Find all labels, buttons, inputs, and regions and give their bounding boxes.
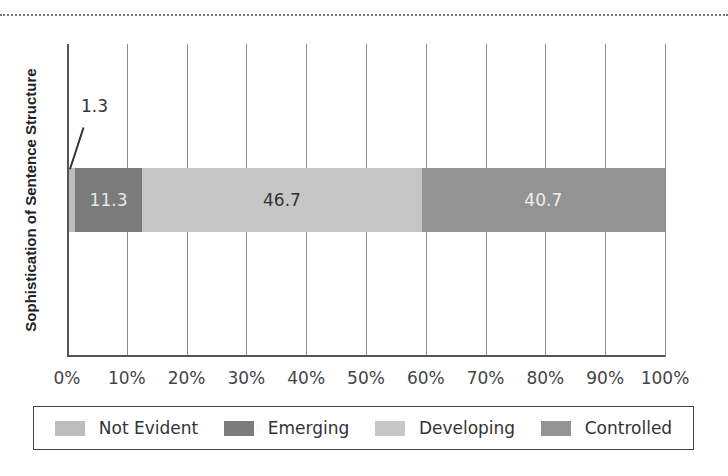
x-tick-label: 40%: [287, 368, 325, 388]
x-tick-label: 30%: [227, 368, 265, 388]
x-tick-label: 10%: [108, 368, 146, 388]
y-axis-label: Sophistication of Sentence Structure: [22, 40, 39, 360]
gridline: [665, 44, 666, 357]
legend-swatch-icon: [541, 421, 571, 436]
y-axis-line: [67, 44, 69, 357]
legend-label: Controlled: [585, 418, 672, 438]
x-tick-label: 20%: [168, 368, 206, 388]
not-evident-callout-label: 1.3: [81, 96, 108, 116]
stacked-bar: 11.346.740.7: [67, 168, 665, 232]
x-tick-label: 90%: [586, 368, 624, 388]
x-axis-line: [67, 355, 665, 357]
legend-item-not-evident: Not Evident: [55, 418, 198, 438]
x-tick-label: 60%: [407, 368, 445, 388]
legend-item-emerging: Emerging: [224, 418, 350, 438]
bar-value-label: 40.7: [524, 190, 562, 210]
callout-leader-line: [69, 127, 84, 169]
x-axis-ticks: 0%10%20%30%40%50%60%70%80%90%100%: [0, 368, 728, 392]
x-tick-label: 0%: [54, 368, 81, 388]
legend-swatch-icon: [375, 421, 405, 436]
bar-value-label: 46.7: [263, 190, 301, 210]
bar-segment-developing: 46.7: [142, 168, 421, 232]
x-tick-label: 100%: [641, 368, 690, 388]
legend-item-controlled: Controlled: [541, 418, 672, 438]
legend: Not EvidentEmergingDevelopingControlled: [33, 406, 694, 450]
x-tick-label: 70%: [467, 368, 505, 388]
top-dotted-divider: [0, 14, 728, 16]
bar-segment-controlled: 40.7: [422, 168, 665, 232]
bar-value-label: 11.3: [90, 190, 128, 210]
legend-label: Emerging: [268, 418, 350, 438]
legend-swatch-icon: [55, 421, 85, 436]
legend-swatch-icon: [224, 421, 254, 436]
plot-area: 11.346.740.7 1.3: [67, 44, 665, 357]
x-tick-label: 80%: [526, 368, 564, 388]
legend-label: Developing: [419, 418, 515, 438]
legend-item-developing: Developing: [375, 418, 515, 438]
x-tick-label: 50%: [347, 368, 385, 388]
bar-segment-emerging: 11.3: [75, 168, 143, 232]
legend-label: Not Evident: [99, 418, 198, 438]
